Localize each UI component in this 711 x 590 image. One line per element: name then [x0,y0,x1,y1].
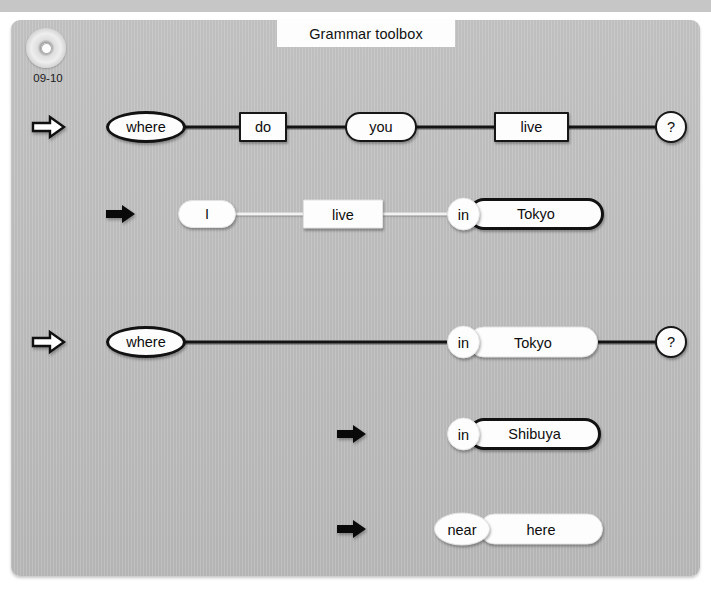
sentence-row-question-2: where in Tokyo ? [11,320,700,364]
connector-line [223,213,311,216]
node-do[interactable]: do [239,112,287,142]
sentence-row-answer-1: I live in Tokyo [11,192,700,236]
node-where[interactable]: where [106,111,186,143]
node-question-mark[interactable]: ? [655,326,687,358]
disc-track-label: 09-10 [20,72,76,84]
outline-arrow-icon [31,114,67,140]
sentence-row-answer-2: in Shibuya [11,412,700,456]
connector-line [176,341,451,344]
audio-track-marker: 09-10 [20,28,76,90]
node-question-mark[interactable]: ? [655,111,687,143]
clipped-caption-text: ここに書いてみましょう！ [547,0,703,2]
node-tokyo[interactable]: Tokyo [468,198,604,230]
node-shibuya[interactable]: Shibuya [468,418,601,450]
connector-line [412,126,495,129]
node-near[interactable]: near [434,513,490,546]
solid-arrow-icon [336,423,368,445]
cd-disc-icon [26,28,66,68]
node-in[interactable]: in [447,326,480,359]
node-in[interactable]: in [447,418,480,451]
screenshot-root: ここに書いてみましょう！ Grammar toolbox 09-10 where… [0,0,711,590]
node-tokyo[interactable]: Tokyo [468,327,598,358]
connector-line [564,126,657,129]
sentence-row-question-1: where do you live ? [11,105,700,149]
solid-arrow-icon [336,518,368,540]
node-in[interactable]: in [447,198,480,231]
sentence-row-answer-3: near here [11,507,700,551]
connector-line [176,126,248,129]
node-here[interactable]: here [479,514,603,545]
node-i[interactable]: I [178,200,236,228]
node-where[interactable]: where [106,326,186,358]
connector-line [279,126,347,129]
outline-arrow-icon [31,329,67,355]
grammar-toolbox-panel: Grammar toolbox 09-10 where do you live … [11,20,700,576]
node-live[interactable]: live [303,200,383,229]
node-you[interactable]: you [345,112,417,142]
connector-line [591,341,657,344]
solid-arrow-icon [105,203,137,225]
clipped-caption-strip: ここに書いてみましょう！ [0,0,711,12]
page-title: Grammar toolbox [277,20,455,47]
node-live[interactable]: live [494,112,569,142]
